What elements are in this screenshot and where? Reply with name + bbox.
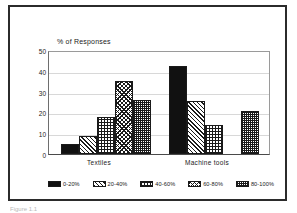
legend-label-60-80: 60-80%	[203, 181, 223, 187]
legend-swatch-60-80	[188, 181, 201, 187]
x-group-label-machine-tools: Machine tools	[156, 159, 258, 166]
y-tick-10: 10	[22, 131, 46, 138]
bar-textiles-20-40	[79, 136, 97, 154]
legend-label-0-20: 0-20%	[63, 181, 80, 187]
plot-area	[48, 51, 270, 155]
bar-machine-tools-40-60	[205, 125, 223, 154]
bar-machine-tools-80-100	[241, 111, 259, 154]
chart-page: % of Responses 50 40 30 20 10 0	[0, 0, 297, 213]
legend: 0-20% 20-40% 40-60% 60-80% 80-100%	[48, 179, 274, 189]
gridline-40	[49, 73, 269, 74]
legend-label-40-60: 40-60%	[155, 181, 175, 187]
y-tick-0: 0	[22, 152, 46, 159]
legend-item-80-100: 80-100%	[236, 181, 274, 187]
y-tick-20: 20	[22, 110, 46, 117]
legend-item-40-60: 40-60%	[140, 181, 175, 187]
bar-machine-tools-0-20	[169, 66, 187, 154]
x-group-label-textiles: Textiles	[48, 159, 150, 166]
figure-caption: Figure 1.1	[10, 206, 37, 213]
bar-textiles-60-80	[115, 81, 133, 154]
gridline-20	[49, 114, 269, 115]
figure-frame: % of Responses 50 40 30 20 10 0	[8, 5, 287, 201]
legend-label-80-100: 80-100%	[251, 181, 274, 187]
bar-machine-tools-20-40	[187, 101, 205, 154]
y-tick-40: 40	[22, 68, 46, 75]
legend-item-0-20: 0-20%	[48, 181, 80, 187]
legend-item-20-40: 20-40%	[93, 181, 128, 187]
legend-item-60-80: 60-80%	[188, 181, 223, 187]
legend-swatch-40-60	[140, 181, 153, 187]
y-tick-50: 50	[22, 48, 46, 55]
bar-textiles-80-100	[133, 100, 151, 154]
y-tick-30: 30	[22, 89, 46, 96]
y-axis-title: % of Responses	[57, 38, 111, 45]
y-axis-tick-labels: 50 40 30 20 10 0	[18, 51, 46, 155]
legend-swatch-0-20	[48, 181, 61, 187]
bar-textiles-0-20	[61, 144, 79, 154]
legend-swatch-20-40	[93, 181, 106, 187]
bar-textiles-40-60	[97, 117, 115, 154]
gridline-30	[49, 94, 269, 95]
legend-swatch-80-100	[236, 181, 249, 187]
legend-label-20-40: 20-40%	[108, 181, 128, 187]
